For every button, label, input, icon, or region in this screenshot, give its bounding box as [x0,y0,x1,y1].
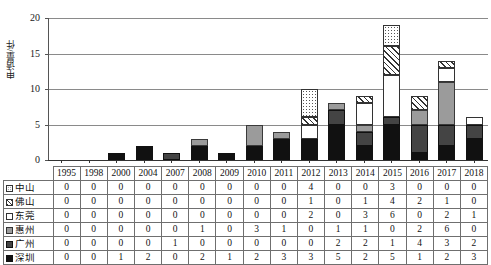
table-cell: 0 [216,209,243,223]
table-cell: 4 [379,195,406,209]
table-cell: 3 [243,223,270,237]
stacked-bar[interactable] [383,25,400,160]
bar-segment [438,146,455,160]
table-cell: 1 [162,237,189,251]
bar-slot [48,18,76,160]
bar-segment [328,110,345,124]
table-cell: 2 [406,195,433,209]
table-row: 广州0000100000221432 [4,237,488,251]
table-cell: 0 [243,209,270,223]
table-year-header: 2010 [243,167,270,181]
table-cell: 0 [189,181,216,195]
stacked-bar[interactable] [356,96,373,160]
table-cell: 2 [325,237,352,251]
legend-swatch-icon [6,199,13,206]
bar-segment [356,132,373,146]
table-year-header: 2012 [297,167,324,181]
table-cell: 0 [460,181,487,195]
table-cell: 0 [216,223,243,237]
bar-segment [438,68,455,82]
table-cell: 2 [189,251,216,265]
table-cell: 0 [325,209,352,223]
table-cell: 3 [297,251,324,265]
table-year-header: 1998 [80,167,107,181]
legend-row-label: 东莞 [4,209,54,223]
stacked-bar[interactable] [301,89,318,160]
bar-segment [246,146,263,160]
bar-slot [103,18,131,160]
table-cell: 6 [379,209,406,223]
x-tick-mark [281,160,282,163]
bar-segment [438,82,455,125]
stacked-bar[interactable] [466,117,483,160]
legend-swatch-icon [6,241,13,248]
table-cell: 4 [406,237,433,251]
bar-slot [461,18,489,160]
x-tick-mark [474,160,475,163]
table-cell: 0 [216,195,243,209]
bar-slot [76,18,104,160]
stacked-bar[interactable] [438,61,455,160]
table-cell: 5 [325,251,352,265]
stacked-bar[interactable] [246,125,263,160]
table-cell: 0 [53,237,80,251]
table-year-header: 2014 [352,167,379,181]
y-tick-label: 5 [14,120,40,130]
bar-segment [356,103,373,124]
table-cell: 0 [134,209,161,223]
legend-row-label: 惠州 [4,223,54,237]
bar-slot [131,18,159,160]
stacked-bar[interactable] [163,153,180,160]
table-cell: 0 [53,195,80,209]
bar-segment [438,125,455,146]
x-tick-mark [309,160,310,163]
plot-area: 申请量/件 05101520 [0,0,491,166]
bar-segment [411,125,428,153]
table-cell: 0 [162,181,189,195]
table-year-header: 2015 [379,167,406,181]
table-cell: 0 [270,181,297,195]
legend-label-text: 佛山 [15,196,35,207]
table-year-header: 2018 [460,167,487,181]
table-cell: 0 [325,181,352,195]
bar-segment [108,153,125,160]
table-cell: 0 [189,237,216,251]
stacked-bar[interactable] [411,96,428,160]
stacked-bar[interactable] [328,103,345,160]
table-cell: 0 [80,223,107,237]
stacked-bar[interactable] [108,153,125,160]
table-cell: 0 [134,195,161,209]
x-tick-mark [144,160,145,163]
stacked-bar[interactable] [191,139,208,160]
legend-swatch-icon [6,185,13,192]
bar-segment [356,125,373,132]
table-cell: 1 [460,209,487,223]
table-cell: 2 [406,223,433,237]
table-cell: 0 [107,237,134,251]
bar-segment [246,125,263,146]
table-year-header: 2007 [162,167,189,181]
bar-slot [351,18,379,160]
bar-segment [191,139,208,146]
legend-label-text: 惠州 [15,224,35,235]
table-cell: 0 [433,181,460,195]
bar-segment [466,125,483,139]
table-cell: 1 [379,237,406,251]
table-cell: 0 [80,209,107,223]
table-cell: 0 [216,237,243,251]
y-tick-mark [45,89,48,90]
table-cell: 0 [107,223,134,237]
stacked-bar[interactable] [273,132,290,160]
table-year-header: 2016 [406,167,433,181]
stacked-bar[interactable] [136,146,153,160]
bar-segment [191,146,208,160]
bar-slot [406,18,434,160]
table-cell: 0 [107,209,134,223]
table-cell: 0 [53,223,80,237]
stacked-bar[interactable] [218,153,235,160]
table-cell: 2 [134,251,161,265]
data-table: 1995199820002004200720082009201020112012… [3,166,488,265]
table-year-header: 2009 [216,167,243,181]
x-tick-mark [364,160,365,163]
table-cell: 1 [406,251,433,265]
